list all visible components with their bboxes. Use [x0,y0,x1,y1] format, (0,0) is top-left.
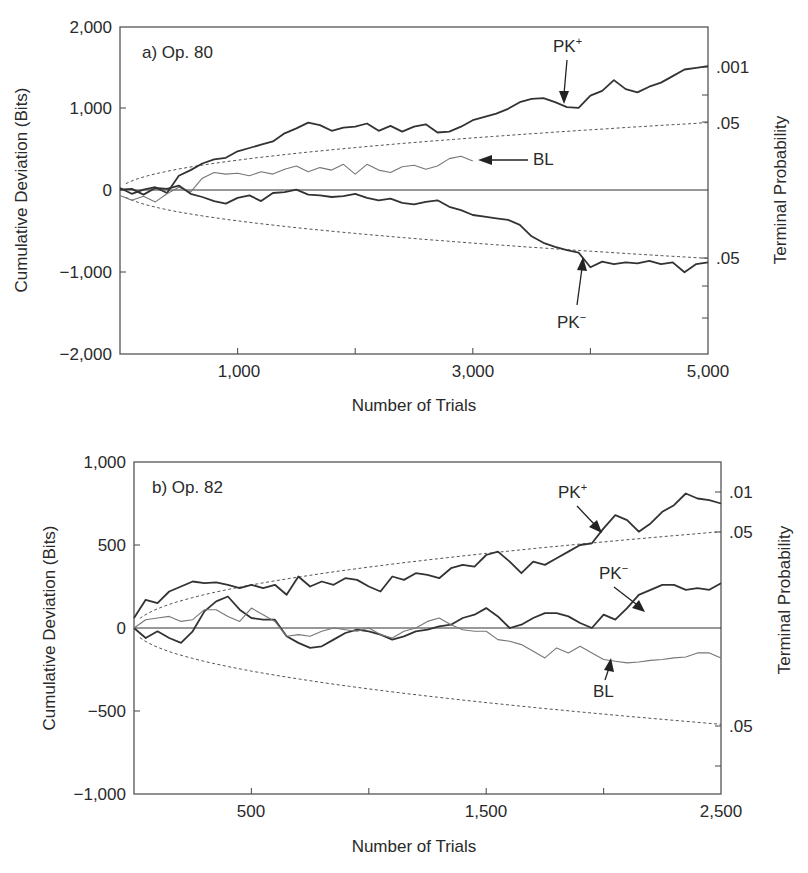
figure: a) Op. 80 2,000 1,000 0 −1,000 −2,000 1,… [0,0,808,873]
svg-text:1,000: 1,000 [69,99,112,118]
x-tick-labels-b: 500 1,500 2,500 [237,802,742,821]
svg-text:5,000: 5,000 [687,362,730,381]
series-pk-minus-a [120,186,708,273]
svg-text:−2,000: −2,000 [60,345,112,364]
y-axis-title-a: Cumulative Deviation (Bits) [12,87,31,292]
annotation-pk-minus-b: PK− [599,562,645,612]
svg-text:PK−: PK− [557,311,586,332]
svg-text:PK+: PK+ [553,35,582,56]
svg-text:−1,000: −1,000 [60,263,112,282]
series-bl-b [134,608,721,663]
svg-text:.05: .05 [716,114,740,133]
svg-text:PK−: PK− [599,562,628,583]
y-tick-labels-a: 2,000 1,000 0 −1,000 −2,000 [60,18,112,364]
svg-text:1,500: 1,500 [465,802,508,821]
svg-text:0: 0 [117,619,126,638]
svg-text:1,000: 1,000 [83,453,126,472]
svg-text:.05: .05 [729,717,753,736]
x-ticks-b [251,788,603,794]
right-ticks-b [715,492,721,766]
right-axis-title-a: Terminal Probability [771,115,790,264]
svg-text:−500: −500 [88,702,126,721]
panel-a: a) Op. 80 2,000 1,000 0 −1,000 −2,000 1,… [12,18,790,415]
svg-text:.01: .01 [729,483,753,502]
x-axis-title-b: Number of Trials [352,837,477,856]
annotation-bl-a: BL [478,150,554,169]
y-tick-labels-b: 1,000 500 0 −500 −1,000 [74,453,126,804]
y-axis-title-b: Cumulative Deviation (Bits) [40,525,59,730]
svg-text:2,000: 2,000 [69,18,112,37]
x-ticks-a [238,348,591,354]
x-tick-labels-a: 1,000 3,000 5,000 [218,362,730,381]
annotation-bl-b: BL [593,658,614,701]
annotation-pk-minus-a: PK− [557,257,587,332]
svg-text:.001: .001 [716,58,749,77]
right-tick-labels-b: .01 .05 .05 [729,483,753,736]
svg-text:BL: BL [593,682,614,701]
envelope-lower-b [140,638,721,725]
panel-label-a: a) Op. 80 [142,43,213,62]
right-ticks-a [702,67,708,318]
annotation-pk-plus-b: PK+ [558,481,602,533]
svg-text:BL: BL [533,150,554,169]
annotation-pk-plus-a: PK+ [553,35,582,104]
series-bl-a [120,156,473,202]
right-axis-title-b: Terminal Probability [775,525,794,674]
series-pk-minus-b [134,583,721,648]
right-tick-labels-a: .001 .05 .05 [716,58,749,268]
svg-text:1,000: 1,000 [218,362,261,381]
svg-text:500: 500 [98,536,126,555]
svg-text:0: 0 [103,181,112,200]
svg-text:2,500: 2,500 [700,802,743,821]
svg-text:3,000: 3,000 [452,362,495,381]
envelope-lower-a [126,197,708,258]
series-pk-plus-a [120,66,708,194]
svg-text:PK+: PK+ [558,481,587,502]
svg-text:.05: .05 [716,249,740,268]
svg-text:.05: .05 [729,523,753,542]
panel-b: b) Op. 82 1,000 500 0 −500 −1,000 500 1,… [40,453,794,856]
svg-text:500: 500 [237,802,265,821]
panel-label-b: b) Op. 82 [152,478,223,497]
svg-text:−1,000: −1,000 [74,785,126,804]
envelope-upper-a [126,123,708,184]
x-axis-title-a: Number of Trials [352,396,477,415]
